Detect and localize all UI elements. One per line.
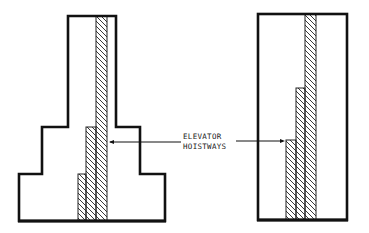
arrowhead-left-icon <box>109 140 114 144</box>
left-building <box>18 16 166 221</box>
right-building <box>257 14 348 220</box>
left-hoistway-2 <box>86 127 96 221</box>
left-hoistway-3 <box>78 174 86 221</box>
left-hoistway-1 <box>96 16 107 221</box>
right-hoistway-3 <box>286 140 296 220</box>
right-hoistway-1 <box>305 14 316 220</box>
label-line-2: HOISTWAYS <box>183 142 226 152</box>
label-line-1: ELEVATOR <box>183 132 226 142</box>
right-hoistway-2 <box>296 88 305 220</box>
elevator-hoistway-diagram <box>0 0 369 233</box>
hoistway-label: ELEVATOR HOISTWAYS <box>183 132 226 152</box>
arrowhead-right-icon <box>280 139 285 143</box>
